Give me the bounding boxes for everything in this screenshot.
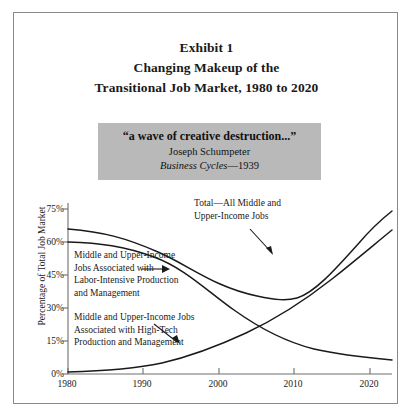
annotation-hightech-line-3: Production and Management	[74, 336, 194, 349]
annotation-hightech-line-2: Associated with High-Tech	[74, 324, 194, 337]
annotation-labor-line-4: and Management	[74, 287, 179, 300]
annotation-labor-line-3: Labor-Intensive Production	[74, 274, 179, 287]
annotation-hightech-line-1: Middle and Upper-Income Jobs	[74, 311, 194, 324]
exhibit-frame: Exhibit 1 Changing Makeup of the Transit…	[13, 12, 398, 404]
annotation-total: Total—All Middle and Upper-Income Jobs	[194, 197, 281, 222]
quote-author: Joseph Schumpeter	[98, 144, 321, 159]
chart: Percentage of Total Job Market 75% 60% 4…	[14, 183, 399, 405]
annotation-total-line-2: Upper-Income Jobs	[194, 210, 281, 223]
quote-source-title: Business Cycles	[160, 160, 227, 171]
annotation-total-line-1: Total—All Middle and	[194, 197, 281, 210]
title-line-1: Exhibit 1	[14, 38, 399, 58]
annotation-labor-intensive: Middle and Upper-Income Jobs Associated …	[74, 249, 179, 299]
quote-text: “a wave of creative destruction...”	[98, 128, 321, 144]
quote-source-year: —1939	[227, 160, 259, 171]
title-line-3: Transitional Job Market, 1980 to 2020	[14, 78, 399, 98]
annotation-labor-line-2: Jobs Associated with	[74, 262, 179, 275]
title-line-2: Changing Makeup of the	[14, 58, 399, 78]
annotation-high-tech: Middle and Upper-Income Jobs Associated …	[74, 311, 194, 349]
page-title: Exhibit 1 Changing Makeup of the Transit…	[14, 38, 399, 98]
annotation-labor-line-1: Middle and Upper-Income	[74, 249, 179, 262]
quote-source: Business Cycles—1939	[98, 159, 321, 173]
quote-callout-box: “a wave of creative destruction...” Jose…	[98, 123, 321, 180]
leader-arrow-total	[250, 229, 273, 255]
